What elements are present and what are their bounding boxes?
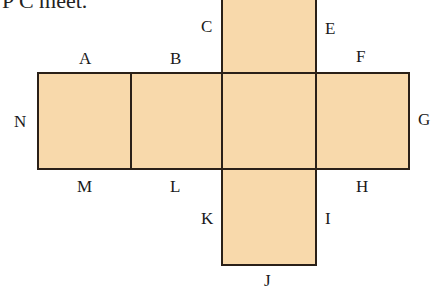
label-e: E (325, 20, 335, 37)
face-center (222, 73, 316, 169)
face-left-outer (38, 73, 131, 169)
face-left-inner (131, 73, 222, 169)
label-g: G (418, 111, 430, 128)
label-l: L (170, 178, 180, 195)
label-f: F (356, 48, 365, 65)
label-j: J (264, 272, 271, 289)
label-c: C (201, 18, 212, 35)
face-top (222, 0, 316, 73)
label-h: H (356, 178, 368, 195)
label-m: M (77, 178, 92, 195)
face-bottom (222, 169, 316, 265)
label-a: A (79, 50, 91, 67)
label-n: N (14, 113, 26, 130)
label-b: B (170, 50, 181, 67)
label-k: K (201, 210, 213, 227)
cube-net-diagram (0, 0, 437, 299)
face-right (316, 73, 409, 169)
label-i: I (325, 210, 331, 227)
